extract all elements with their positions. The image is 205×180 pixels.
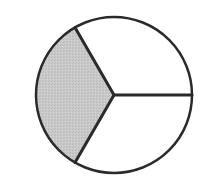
fraction-circle-diagram — [0, 0, 205, 180]
